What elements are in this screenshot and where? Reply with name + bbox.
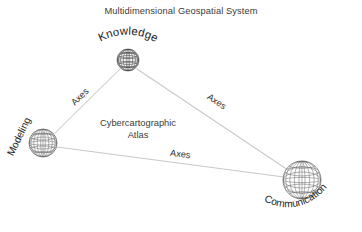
node-label-knowledge: Knowledge: [96, 25, 160, 44]
page-title: Multidimensional Geospatial System: [104, 6, 257, 16]
node-modeling[interactable]: Modeling: [5, 115, 57, 157]
edge-label-modeling-communication: Axes: [170, 148, 192, 161]
edge-label-knowledge-modeling: Axes: [69, 86, 91, 108]
node-communication[interactable]: Communication: [263, 157, 329, 209]
diagram-canvas: Multidimensional Geospatial System Axes …: [0, 0, 362, 232]
globe-icon: [117, 49, 139, 71]
center-label-line1: Cybercartographic: [100, 118, 176, 128]
node-label-modeling: Modeling: [5, 115, 33, 157]
globe-icon: [29, 129, 57, 157]
geospatial-system-diagram: Multidimensional Geospatial System Axes …: [0, 0, 362, 232]
center-label: Cybercartographic Atlas: [100, 118, 176, 140]
node-knowledge[interactable]: Knowledge: [96, 25, 160, 71]
edge-label-knowledge-communication: Axes: [205, 92, 228, 112]
center-label-line2: Atlas: [128, 130, 149, 140]
